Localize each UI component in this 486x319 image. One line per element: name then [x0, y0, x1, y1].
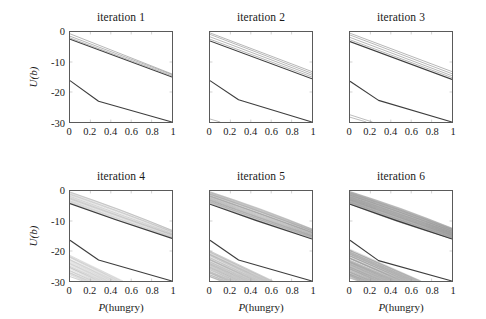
x-tick-label: 0.8 [426, 126, 439, 137]
y-tick-label: 0 [39, 185, 65, 196]
x-tick-label: 0.8 [146, 285, 159, 296]
panel-iteration-1: iteration 10-10-20-3000.20.40.60.81 [29, 11, 181, 147]
panel-iteration-5: iteration 500.20.40.60.81 [169, 170, 321, 306]
x-tick-label: 0.8 [146, 126, 159, 137]
panel-title-6: iteration 6 [349, 170, 453, 182]
figure-root: U(b) U(b) iteration 10-10-20-3000.20.40.… [0, 0, 486, 319]
x-tick-label: 0.2 [363, 285, 376, 296]
panel-iteration-3: iteration 300.20.40.60.81 [309, 11, 461, 147]
x-tick-label: 0 [346, 285, 351, 296]
panel-iteration-4: iteration 40-10-20-3000.20.40.60.81 [29, 170, 181, 306]
plot-area-iteration-4 [69, 190, 173, 282]
panel-title-2: iteration 2 [209, 11, 313, 23]
panel-title-1: iteration 1 [69, 11, 173, 23]
x-tick-label: 0.8 [286, 285, 299, 296]
x-tick-label: 0.4 [384, 285, 397, 296]
x-axis-label-rest: (hungry) [105, 301, 144, 313]
x-tick-label: 0.4 [384, 126, 397, 137]
plot-area-iteration-5 [209, 190, 313, 282]
x-tick-label: 0.2 [223, 285, 236, 296]
plot-area-iteration-2 [209, 31, 313, 123]
x-tick-label: 0.6 [125, 285, 138, 296]
x-tick-label: 0.2 [83, 285, 96, 296]
plot-area-iteration-3 [349, 31, 453, 123]
x-tick-label: 0 [206, 285, 211, 296]
y-tick-label: -30 [39, 277, 65, 288]
x-tick-label: 0.6 [125, 126, 138, 137]
x-axis-label-panel-5: P(hungry) [209, 301, 313, 313]
y-tick-label: 0 [39, 26, 65, 37]
x-tick-label: 0.2 [363, 126, 376, 137]
y-tick-label: -30 [39, 118, 65, 129]
x-tick-label: 1 [450, 285, 455, 296]
panel-title-4: iteration 4 [69, 170, 173, 182]
panel-title-3: iteration 3 [349, 11, 453, 23]
plot-area-iteration-6 [349, 190, 453, 282]
x-tick-label: 0.4 [104, 126, 117, 137]
x-tick-label: 0.6 [265, 126, 278, 137]
panel-iteration-6: iteration 600.20.40.60.81 [309, 170, 461, 306]
x-tick-label: 0.6 [405, 285, 418, 296]
x-tick-label: 0.2 [83, 126, 96, 137]
x-tick-label: 0.6 [265, 285, 278, 296]
x-tick-label: 1 [450, 126, 455, 137]
panel-title-5: iteration 5 [209, 170, 313, 182]
y-tick-label: -20 [39, 246, 65, 257]
x-axis-label-panel-6: P(hungry) [349, 301, 453, 313]
x-tick-label: 0 [66, 285, 71, 296]
x-axis-label-rest: (hungry) [245, 301, 284, 313]
x-axis-label-rest: (hungry) [385, 301, 424, 313]
y-tick-label: -10 [39, 215, 65, 226]
x-tick-label: 0.6 [405, 126, 418, 137]
y-tick-label: -20 [39, 87, 65, 98]
x-tick-label: 0 [346, 126, 351, 137]
x-tick-label: 0.4 [104, 285, 117, 296]
x-tick-label: 0.4 [244, 285, 257, 296]
x-tick-label: 0.8 [426, 285, 439, 296]
x-tick-label: 0 [66, 126, 71, 137]
panel-iteration-2: iteration 200.20.40.60.81 [169, 11, 321, 147]
x-tick-label: 0 [206, 126, 211, 137]
x-tick-label: 0.4 [244, 126, 257, 137]
y-tick-label: -10 [39, 56, 65, 67]
x-axis-label-panel-4: P(hungry) [69, 301, 173, 313]
x-tick-label: 0.2 [223, 126, 236, 137]
plot-area-iteration-1 [69, 31, 173, 123]
x-tick-label: 0.8 [286, 126, 299, 137]
